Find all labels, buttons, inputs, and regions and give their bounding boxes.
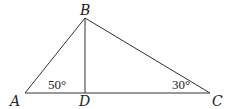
label-c: C: [212, 93, 223, 109]
angle-a-label: 50°: [48, 77, 66, 92]
label-d: D: [78, 93, 90, 109]
label-b: B: [79, 2, 90, 18]
triangle-diagram: B A D C 50° 30°: [0, 0, 233, 109]
angle-c-label: 30°: [172, 77, 190, 92]
label-a: A: [8, 93, 20, 109]
segment-bc: [85, 18, 210, 93]
